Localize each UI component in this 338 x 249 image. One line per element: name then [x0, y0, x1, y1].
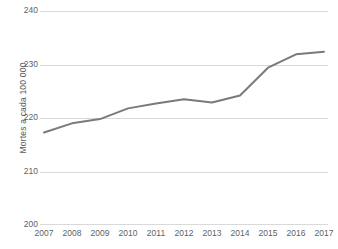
plot-area [40, 11, 328, 225]
y-tick-label-240: 240 [14, 6, 38, 15]
series-line [44, 52, 324, 133]
x-tick-label-2017: 2017 [308, 229, 338, 238]
series-line-group [40, 11, 328, 225]
y-tick-label-220: 220 [14, 113, 38, 122]
y-tick-label-210: 210 [14, 167, 38, 176]
x-axis-tick-labels: 2007200820092010201120122013201420152016… [40, 229, 328, 243]
y-tick-label-230: 230 [14, 60, 38, 69]
